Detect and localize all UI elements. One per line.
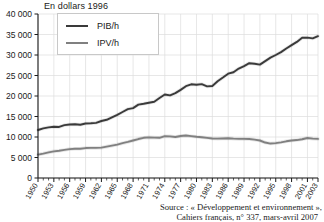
- svg-text:1974: 1974: [150, 182, 166, 201]
- legend-swatch-ipv: [66, 42, 88, 44]
- svg-text:20 000: 20 000: [6, 91, 32, 101]
- svg-text:40 000: 40 000: [6, 9, 32, 19]
- svg-text:1995: 1995: [261, 182, 277, 201]
- svg-text:10 000: 10 000: [6, 132, 32, 142]
- legend-swatch-pib: [66, 25, 88, 27]
- legend-label-ipv: IPV/h: [97, 38, 119, 48]
- svg-text:1977: 1977: [166, 182, 182, 201]
- legend-label-pib: PIB/h: [97, 21, 119, 31]
- chart-legend: PIB/h IPV/h: [57, 13, 159, 55]
- svg-text:30 000: 30 000: [6, 50, 32, 60]
- source-note: Source : « Développement et environnemen…: [160, 203, 322, 221]
- svg-text:1971: 1971: [134, 182, 150, 201]
- svg-text:1962: 1962: [87, 182, 103, 201]
- svg-text:1998: 1998: [277, 182, 293, 201]
- x-axis-ticks: 1950195319561959196219651968197119741977…: [23, 178, 319, 201]
- svg-text:1950: 1950: [23, 182, 39, 201]
- source-line-2: Cahiers français, n° 337, mars-avril 200…: [160, 213, 322, 222]
- svg-text:1959: 1959: [71, 182, 87, 201]
- svg-text:1956: 1956: [55, 182, 71, 201]
- svg-text:5 000: 5 000: [11, 153, 33, 163]
- y-axis-ticks: 05 00010 00015 00020 00025 00030 00035 0…: [6, 9, 38, 183]
- svg-text:1986: 1986: [214, 182, 230, 201]
- svg-text:1983: 1983: [198, 182, 214, 201]
- legend-entry-ipv: IPV/h: [66, 36, 119, 50]
- svg-text:15 000: 15 000: [6, 112, 32, 122]
- svg-text:1953: 1953: [39, 182, 55, 201]
- svg-text:25 000: 25 000: [6, 71, 32, 81]
- chart-figure: En dollars 1996 05 00010 00015 00020 000…: [0, 0, 324, 221]
- svg-text:1968: 1968: [119, 182, 135, 201]
- svg-text:1989: 1989: [230, 181, 246, 200]
- svg-text:1980: 1980: [182, 182, 198, 201]
- svg-text:1965: 1965: [103, 182, 119, 201]
- legend-entry-pib: PIB/h: [66, 19, 119, 33]
- svg-text:35 000: 35 000: [6, 30, 32, 40]
- chart-plot-area: 05 00010 00015 00020 00025 00030 00035 0…: [0, 0, 324, 221]
- svg-text:1992: 1992: [245, 182, 261, 201]
